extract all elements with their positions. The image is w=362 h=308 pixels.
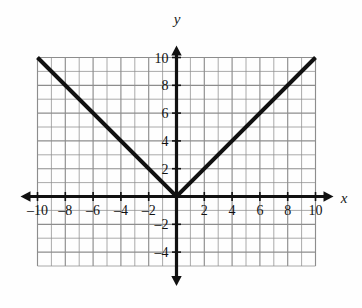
x-tick-label: –6	[85, 203, 100, 218]
y-tick-label: –4	[154, 245, 169, 260]
y-tick-label: 4	[162, 134, 169, 149]
coordinate-plane: –10–8–6–4–2246810108642–2–4 x y	[0, 0, 362, 308]
x-tick-label: 8	[284, 203, 291, 218]
graph-figure: –10–8–6–4–2246810108642–2–4 x y	[0, 0, 362, 308]
x-tick-label: 2	[201, 203, 208, 218]
x-tick-label: 6	[256, 203, 263, 218]
x-axis-label: x	[340, 190, 348, 206]
y-tick-label: 10	[155, 51, 169, 66]
x-tick-label: 10	[309, 203, 323, 218]
x-tick-label: –4	[113, 203, 128, 218]
y-tick-label: –2	[154, 217, 169, 232]
x-tick-label: –8	[57, 203, 72, 218]
y-tick-label: 8	[162, 78, 169, 93]
y-tick-label: 2	[162, 162, 169, 177]
x-tick-label: –10	[26, 203, 48, 218]
x-tick-label: 4	[229, 203, 236, 218]
x-tick-label: –2	[141, 203, 156, 218]
y-axis-label: y	[172, 11, 181, 27]
y-tick-label: 6	[162, 106, 169, 121]
figure-background	[0, 0, 362, 308]
